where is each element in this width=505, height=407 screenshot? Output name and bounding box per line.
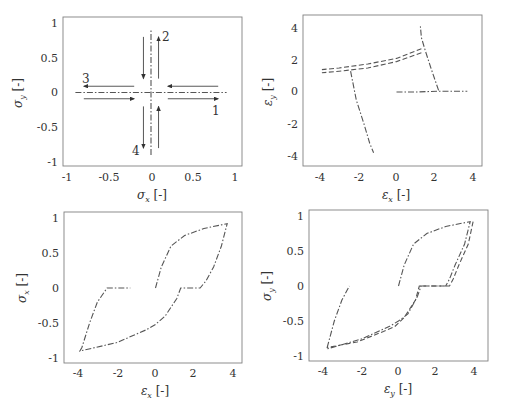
figure: -1 -0.5 0 0.5 1 -1 -0.5 0 0.5 1 σx [-] σ…	[0, 0, 505, 407]
x-tick-label: -2	[354, 171, 365, 184]
y-tick-label: 2	[291, 54, 298, 67]
x-ticks: -4 -2 0 2 4	[315, 171, 477, 184]
annotation-label-4: 4	[132, 144, 140, 158]
y-tick-label: 0.5	[41, 52, 59, 65]
y-tick-label: 0.5	[42, 247, 60, 260]
plot-area	[75, 30, 226, 155]
y-tick-label: -1	[293, 350, 304, 363]
x-tick-label: -1	[62, 171, 73, 184]
x-tick-label: 0	[393, 171, 400, 184]
x-axis-label: σx [-]	[137, 188, 167, 204]
y-tick-label: 0	[291, 85, 298, 98]
x-ticks: -4 -2 0 2 4	[318, 365, 478, 378]
data-series-line	[322, 53, 422, 73]
plot-area	[327, 222, 473, 349]
y-tick-label: -1	[47, 156, 58, 169]
x-tick-label: 4	[470, 171, 477, 184]
data-series-line	[327, 222, 470, 349]
x-ticks: -4 -2 0 2 4	[73, 367, 237, 380]
annotation-label-1: 1	[212, 104, 220, 118]
plot-area	[80, 224, 227, 351]
x-tick-label: 0	[395, 365, 402, 378]
axes-frame	[303, 15, 482, 166]
subplot-eps-y-vs-sigma-y: -4 -2 0 2 4 -1 -0.5 0 0.5 1 εy [-] σy [-…	[260, 210, 488, 398]
y-tick-label: 1	[52, 212, 59, 225]
x-tick-label: -2	[357, 365, 368, 378]
y-tick-label: -0.5	[37, 121, 58, 134]
x-tick-label: -4	[318, 365, 329, 378]
y-tick-label: -1	[48, 352, 59, 365]
x-axis-label: εy [-]	[384, 382, 412, 398]
x-tick-label: 0	[149, 171, 156, 184]
x-tick-label: 2	[432, 365, 439, 378]
y-tick-label: 0	[51, 86, 58, 99]
y-tick-label: -2	[287, 118, 298, 131]
y-tick-label: 1	[297, 210, 304, 223]
x-tick-label: 1	[232, 171, 239, 184]
y-axis-label: σx [-]	[15, 273, 31, 303]
annotation-label-3: 3	[82, 72, 90, 86]
y-axis-label: εy [-]	[261, 78, 277, 106]
y-ticks: -1 -0.5 0 0.5 1	[38, 212, 59, 365]
x-tick-label: 2	[431, 171, 438, 184]
y-tick-label: 4	[291, 22, 298, 35]
y-ticks: -1 -0.5 0 0.5 1	[37, 17, 58, 169]
y-tick-label: 0	[52, 282, 59, 295]
subplot-eps-x-vs-sigma-x: -4 -2 0 2 4 -1 -0.5 0 0.5 1 εx [-] σx [-…	[15, 212, 242, 400]
plot-area	[322, 26, 467, 152]
x-axis-label: εx [-]	[382, 188, 410, 204]
x-ticks: -1 -0.5 0 0.5 1	[62, 171, 239, 184]
axes-frame	[63, 17, 242, 166]
subplot-sigma-x-vs-sigma-y: -1 -0.5 0 0.5 1 -1 -0.5 0 0.5 1 σx [-] σ…	[11, 17, 242, 204]
data-series-line	[322, 49, 422, 70]
x-tick-label: -2	[113, 367, 124, 380]
data-series-line	[351, 71, 374, 153]
axes-frame	[64, 212, 242, 363]
y-tick-label: 1	[51, 17, 58, 30]
x-tick-label: 4	[230, 367, 237, 380]
annotation-label-2: 2	[162, 30, 170, 44]
x-tick-label: 0	[152, 367, 159, 380]
y-axis-label: σy [-]	[11, 78, 27, 108]
y-tick-label: -0.5	[283, 315, 304, 328]
y-axis-label: σy [-]	[260, 271, 276, 301]
y-tick-label: -4	[287, 150, 298, 163]
data-series-line	[80, 224, 227, 351]
x-tick-label: -4	[73, 367, 84, 380]
x-tick-label: 2	[190, 367, 197, 380]
x-axis-label: εx [-]	[141, 384, 169, 400]
x-tick-label: 0.5	[184, 171, 202, 184]
data-series-line	[420, 26, 438, 90]
x-tick-label: -4	[315, 171, 326, 184]
y-tick-label: 0	[297, 280, 304, 293]
x-tick-label: 4	[471, 365, 478, 378]
y-ticks: -1 -0.5 0 0.5 1	[283, 210, 304, 363]
data-series-line	[397, 91, 468, 92]
y-tick-label: -0.5	[38, 317, 59, 330]
y-tick-label: 0.5	[287, 245, 305, 258]
subplot-eps-x-vs-eps-y: -4 -2 0 2 4 -4 -2 0 2 4 εx [-] εy [-]	[261, 15, 482, 204]
x-tick-label: -0.5	[98, 171, 119, 184]
data-series-line	[327, 222, 473, 348]
y-ticks: -4 -2 0 2 4	[287, 22, 298, 163]
